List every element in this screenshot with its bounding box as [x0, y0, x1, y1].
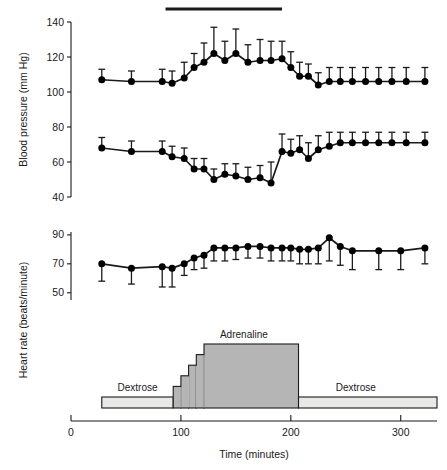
adrenaline-infusion-step [204, 344, 299, 408]
heart-rate-datapoint [421, 244, 428, 251]
heart-rate-datapoint [244, 243, 251, 250]
heart-rate-datapoint [169, 265, 176, 272]
diastolic-datapoint [421, 139, 428, 146]
systolic-datapoint [98, 76, 105, 83]
diastolic-datapoint [388, 139, 395, 146]
dextrose-left-label: Dextrose [117, 382, 157, 393]
systolic-datapoint [287, 64, 294, 71]
diastolic-datapoint [98, 145, 105, 152]
systolic-datapoint [388, 78, 395, 85]
x-ticklabel: 200 [282, 426, 300, 438]
diastolic-datapoint [210, 176, 217, 183]
systolic-datapoint [362, 78, 369, 85]
figure-canvas: 406080100120140Blood pressure (mm Hg)507… [0, 0, 447, 470]
systolic-datapoint [305, 73, 312, 80]
adrenaline-infusion-step [173, 386, 181, 408]
heart-rate-datapoint [287, 244, 294, 251]
heart-rate-datapoint [337, 243, 344, 250]
adrenaline-infusion-step [196, 355, 204, 408]
x-ticklabel: 100 [172, 426, 190, 438]
bp-y-ticklabel: 140 [46, 16, 64, 28]
systolic-datapoint [221, 57, 228, 64]
diastolic-datapoint [362, 139, 369, 146]
heart-rate-datapoint [296, 246, 303, 253]
diastolic-datapoint [232, 173, 239, 180]
diastolic-datapoint [159, 148, 166, 155]
bp-y-ticklabel: 80 [52, 121, 64, 133]
diastolic-datapoint [326, 143, 333, 150]
diastolic-datapoint [257, 174, 264, 181]
systolic-datapoint [279, 55, 286, 62]
systolic-datapoint [128, 78, 135, 85]
systolic-datapoint [191, 64, 198, 71]
heart-rate-datapoint [305, 246, 312, 253]
heart-rate-datapoint [326, 234, 333, 241]
bp-y-ticklabel: 60 [52, 156, 64, 168]
systolic-datapoint [210, 50, 217, 57]
bp-y-ticklabel: 120 [46, 51, 64, 63]
heart-rate-datapoint [349, 247, 356, 254]
heart-rate-datapoint [279, 244, 286, 251]
diastolic-datapoint [200, 166, 207, 173]
diastolic-datapoint [279, 148, 286, 155]
dextrose-right-label: Dextrose [336, 382, 376, 393]
systolic-datapoint [349, 78, 356, 85]
heart-rate-datapoint [221, 244, 228, 251]
heart-rate-datapoint [257, 243, 264, 250]
x-ticklabel: 300 [392, 426, 410, 438]
heart-rate-datapoint [210, 244, 217, 251]
diastolic-datapoint [128, 148, 135, 155]
diastolic-datapoint [349, 139, 356, 146]
heart-rate-datapoint [191, 255, 198, 262]
systolic-datapoint [200, 59, 207, 66]
diastolic-datapoint [315, 146, 322, 153]
hr-y-ticklabel: 70 [52, 257, 64, 269]
bp-y-ticklabel: 40 [52, 191, 64, 203]
diastolic-datapoint [268, 180, 275, 187]
heart-rate-datapoint [200, 252, 207, 259]
diastolic-datapoint [169, 153, 176, 160]
diastolic-datapoint [191, 166, 198, 173]
adrenaline-infusion-step [189, 365, 197, 408]
heart-rate-datapoint [128, 265, 135, 272]
hr-y-axis-label: Heart rate (beats/minute) [17, 262, 29, 379]
x-axis-label: Time (minutes) [219, 448, 289, 460]
systolic-datapoint [169, 80, 176, 87]
diastolic-datapoint [244, 176, 251, 183]
hr-y-ticklabel: 90 [52, 228, 64, 240]
systolic-datapoint [421, 78, 428, 85]
dextrose-infusion-bar [102, 397, 173, 408]
systolic-datapoint [296, 73, 303, 80]
systolic-datapoint [257, 57, 264, 64]
systolic-datapoint [337, 78, 344, 85]
x-ticklabel: 0 [68, 426, 74, 438]
heart-rate-datapoint [268, 244, 275, 251]
systolic-datapoint [244, 59, 251, 66]
diastolic-datapoint [181, 155, 188, 162]
systolic-datapoint [232, 50, 239, 57]
systolic-datapoint [403, 78, 410, 85]
dextrose-infusion-bar [299, 397, 437, 408]
diastolic-datapoint [375, 139, 382, 146]
systolic-datapoint [268, 57, 275, 64]
systolic-datapoint [181, 75, 188, 82]
heart-rate-datapoint [181, 260, 188, 267]
diastolic-datapoint [337, 139, 344, 146]
diastolic-datapoint [287, 150, 294, 157]
bp-y-axis-label: Blood pressure (mm Hg) [17, 52, 29, 166]
systolic-datapoint [375, 78, 382, 85]
hr-y-ticklabel: 50 [52, 286, 64, 298]
systolic-datapoint [326, 78, 333, 85]
systolic-datapoint [315, 82, 322, 89]
adrenaline-infusion-step [181, 376, 189, 408]
heart-rate-datapoint [375, 247, 382, 254]
diastolic-datapoint [221, 171, 228, 178]
systolic-datapoint [159, 78, 166, 85]
heart-rate-datapoint [397, 247, 404, 254]
diastolic-datapoint [296, 146, 303, 153]
heart-rate-datapoint [98, 260, 105, 267]
diastolic-datapoint [403, 139, 410, 146]
bp-y-ticklabel: 100 [46, 86, 64, 98]
heart-rate-datapoint [159, 263, 166, 270]
heart-rate-datapoint [232, 244, 239, 251]
